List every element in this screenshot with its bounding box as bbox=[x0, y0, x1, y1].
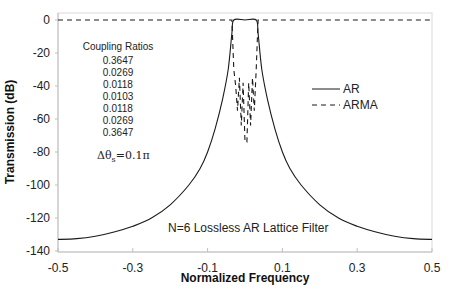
x-tick-label: -0.3 bbox=[122, 261, 143, 275]
y-tick-label: -100 bbox=[26, 178, 50, 192]
y-tick-label: -140 bbox=[26, 244, 50, 258]
y-ticks: 0-20-40-60-80-100-120-140 bbox=[26, 13, 58, 258]
coupling-ratio-value: 0.3647 bbox=[103, 127, 134, 138]
x-tick-label: 0.5 bbox=[424, 261, 441, 275]
coupling-ratio-value: 0.0103 bbox=[103, 91, 134, 102]
y-tick-label: -60 bbox=[33, 112, 51, 126]
coupling-ratios-title: Coupling Ratios bbox=[83, 41, 154, 52]
coupling-ratio-value: 0.3647 bbox=[103, 55, 134, 66]
x-tick-label: 0.3 bbox=[349, 261, 366, 275]
coupling-ratio-value: 0.0118 bbox=[103, 103, 133, 114]
coupling-ratios-list: 0.36470.02690.01180.01030.01180.02690.36… bbox=[103, 55, 134, 138]
legend-arma-label: ARMA bbox=[343, 98, 378, 112]
y-tick-label: 0 bbox=[43, 13, 50, 27]
y-tick-label: -80 bbox=[33, 145, 51, 159]
delta-theta-annotation: Δθs=0.1π bbox=[97, 149, 150, 164]
chart-caption: N=6 Lossless AR Lattice Filter bbox=[168, 221, 328, 235]
x-axis-title: Normalized Frequency bbox=[181, 271, 310, 285]
legend-ar-label: AR bbox=[343, 82, 360, 96]
coupling-ratio-value: 0.0118 bbox=[103, 79, 133, 90]
x-tick-label: -0.5 bbox=[48, 261, 69, 275]
chart: 0-20-40-60-80-100-120-140 -0.5-0.3-0.10.… bbox=[0, 0, 449, 306]
coupling-ratio-value: 0.0269 bbox=[103, 67, 134, 78]
y-tick-label: -120 bbox=[26, 211, 50, 225]
coupling-ratio-value: 0.0269 bbox=[103, 115, 134, 126]
y-tick-label: -20 bbox=[33, 46, 51, 60]
y-axis-title: Transmission (dB) bbox=[3, 80, 17, 185]
y-tick-label: -40 bbox=[33, 79, 51, 93]
